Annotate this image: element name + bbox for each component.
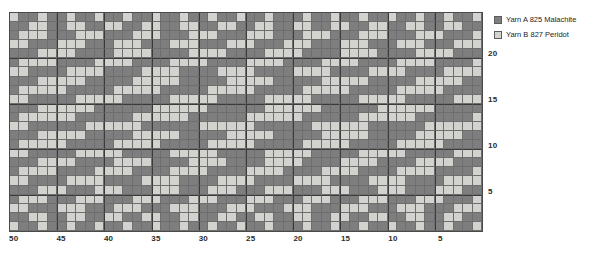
chart-cell — [322, 40, 331, 49]
chart-cell — [95, 77, 104, 86]
chart-cell — [435, 176, 444, 185]
chart-cell — [397, 67, 406, 76]
chart-cell — [435, 104, 444, 113]
chart-cell — [274, 195, 283, 204]
chart-cell — [86, 204, 95, 213]
chart-cell — [322, 167, 331, 176]
chart-cell — [416, 167, 425, 176]
chart-cell — [406, 204, 415, 213]
chart-cell — [180, 222, 189, 231]
chart-cell — [86, 213, 95, 222]
chart-cell — [378, 149, 387, 158]
chart-cell — [218, 49, 227, 58]
chart-cell — [48, 22, 57, 31]
chart-cell — [255, 22, 264, 31]
chart-cell — [67, 167, 76, 176]
chart-cell — [378, 204, 387, 213]
chart-cell — [199, 40, 208, 49]
chart-cell — [114, 131, 123, 140]
chart-cell — [473, 131, 482, 140]
chart-cell — [444, 104, 453, 113]
chart-cell — [29, 167, 38, 176]
chart-cell — [246, 95, 255, 104]
chart-cell — [274, 167, 283, 176]
chart-cell — [208, 22, 217, 31]
chart-cell — [331, 149, 340, 158]
chart-cell — [227, 222, 236, 231]
chart-cell — [322, 104, 331, 113]
chart-cell — [227, 131, 236, 140]
chart-cell — [237, 49, 246, 58]
chart-cell — [161, 176, 170, 185]
chart-cell — [454, 113, 463, 122]
chart-cell — [397, 186, 406, 195]
chart-cell — [227, 122, 236, 131]
chart-cell — [416, 67, 425, 76]
chart-cell — [208, 113, 217, 122]
chart-cell — [473, 204, 482, 213]
chart-cell — [76, 167, 85, 176]
chart-cell — [67, 122, 76, 131]
chart-cell — [189, 186, 198, 195]
chart-cell — [161, 213, 170, 222]
chart-cell — [67, 67, 76, 76]
chart-cell — [114, 122, 123, 131]
chart-cell — [76, 195, 85, 204]
chart-cell — [312, 122, 321, 131]
chart-cell — [416, 222, 425, 231]
chart-cell — [274, 22, 283, 31]
chart-cell — [293, 149, 302, 158]
chart-cell — [284, 140, 293, 149]
chart-cell — [444, 22, 453, 31]
chart-cell — [123, 195, 132, 204]
chart-cell — [274, 31, 283, 40]
chart-cell — [378, 104, 387, 113]
chart-cell — [463, 222, 472, 231]
chart-cell — [10, 40, 19, 49]
chart-cell — [331, 195, 340, 204]
chart-cell — [57, 195, 66, 204]
chart-cell — [133, 113, 142, 122]
chart-cell — [86, 13, 95, 22]
chart-cell — [208, 140, 217, 149]
chart-cell — [340, 186, 349, 195]
chart-cell — [67, 49, 76, 58]
chart-cell — [67, 77, 76, 86]
chart-cell — [284, 95, 293, 104]
chart-cell — [350, 158, 359, 167]
chart-cell — [265, 222, 274, 231]
x-axis-tick: 15 — [341, 234, 350, 243]
chart-cell — [444, 31, 453, 40]
chart-cell — [199, 31, 208, 40]
chart-cell — [274, 40, 283, 49]
y-axis-tick: 10 — [488, 140, 497, 149]
chart-cell — [123, 22, 132, 31]
chart-cell — [38, 222, 47, 231]
chart-cell — [29, 186, 38, 195]
chart-cell — [95, 195, 104, 204]
chart-cell — [406, 222, 415, 231]
chart-cell — [340, 40, 349, 49]
chart-cell — [218, 86, 227, 95]
chart-cell — [10, 58, 19, 67]
y-axis-tick: 20 — [488, 49, 497, 58]
chart-cell — [161, 22, 170, 31]
chart-cell — [170, 222, 179, 231]
chart-cell — [76, 86, 85, 95]
chart-cell — [218, 195, 227, 204]
chart-cell — [123, 67, 132, 76]
chart-cell — [378, 86, 387, 95]
chart-cell — [463, 176, 472, 185]
chart-cell — [388, 222, 397, 231]
chart-cell — [246, 22, 255, 31]
chart-cell — [350, 131, 359, 140]
chart-cell — [199, 95, 208, 104]
chart-cell — [359, 158, 368, 167]
chart-cell — [123, 204, 132, 213]
chart-cell — [340, 31, 349, 40]
chart-cell — [312, 95, 321, 104]
chart-cell — [388, 49, 397, 58]
chart-cell — [208, 104, 217, 113]
chart-cell — [293, 40, 302, 49]
chart-cell — [397, 140, 406, 149]
